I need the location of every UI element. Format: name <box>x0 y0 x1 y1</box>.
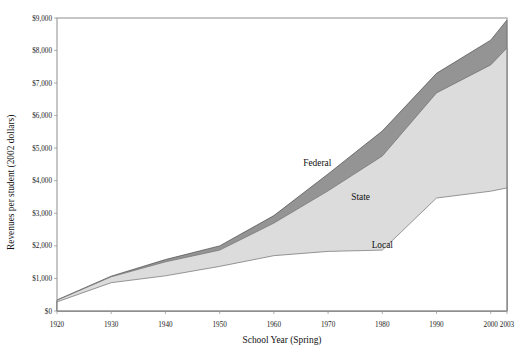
x-tick-label: 1940 <box>158 321 173 329</box>
x-axis-title: School Year (Spring) <box>243 335 322 346</box>
y-tick-labels: $0 $1,000 $2,000 $3,000 $4,000 $5,000 $6… <box>32 15 52 316</box>
x-tick-label: 1960 <box>267 321 282 329</box>
chart-page: Revenues per student (2002 dollars) $0 $… <box>0 0 521 350</box>
x-tick-label: 2003 <box>500 321 515 329</box>
y-tick-label: $9,000 <box>32 15 52 23</box>
series-areas <box>57 20 507 311</box>
y-tick-label: $7,000 <box>32 80 52 88</box>
x-tick-label: 1950 <box>212 321 227 329</box>
y-tick-label: $5,000 <box>32 145 52 153</box>
y-tick-label: $1,000 <box>32 275 52 283</box>
x-tick-label: 1930 <box>104 321 119 329</box>
series-label-local: Local <box>372 240 394 250</box>
y-tick-label: $4,000 <box>32 177 52 185</box>
x-tick-label: 2000 <box>484 321 499 329</box>
x-tick-labels: 1920 1930 1940 1950 1960 1970 1980 1990 … <box>50 321 515 329</box>
x-tick-label: 1970 <box>321 321 336 329</box>
x-tick-label: 1990 <box>429 321 444 329</box>
x-tick-label: 1980 <box>375 321 390 329</box>
x-tick-label: 1920 <box>50 321 65 329</box>
y-tick-label: $0 <box>45 308 53 316</box>
y-axis-title: Revenues per student (2002 dollars) <box>6 115 17 250</box>
series-label-federal: Federal <box>303 158 332 168</box>
series-label-state: State <box>351 192 370 202</box>
y-tick-label: $3,000 <box>32 210 52 218</box>
y-tick-label: $6,000 <box>32 112 52 120</box>
y-tick-label: $8,000 <box>32 47 52 55</box>
stacked-area-chart: Revenues per student (2002 dollars) $0 $… <box>0 0 521 350</box>
y-tick-label: $2,000 <box>32 242 52 250</box>
